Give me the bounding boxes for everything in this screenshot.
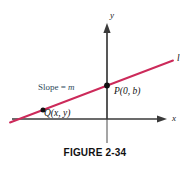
point-p-marker	[104, 83, 110, 89]
point-p-label: P(0, b)	[114, 87, 140, 97]
slope-annotation-prefix: Slope =	[38, 82, 68, 92]
figure-container: y x l Slope = m P(0, b) Q(x, y) FIGURE 2…	[0, 0, 190, 170]
x-axis-arrowhead	[157, 115, 167, 122]
y-axis-arrowhead	[103, 23, 110, 33]
y-axis-label: y	[110, 11, 114, 20]
slope-annotation-variable: m	[68, 82, 75, 92]
slope-annotation: Slope = m	[38, 83, 75, 92]
figure-caption: FIGURE 2-34	[0, 147, 190, 158]
line-label-l: l	[177, 54, 180, 64]
line-l	[10, 61, 173, 123]
point-q-label: Q(x, y)	[44, 109, 70, 119]
graph-area: y x l Slope = m P(0, b) Q(x, y)	[0, 0, 190, 145]
x-axis-label: x	[172, 114, 176, 123]
coordinate-plane-graphic	[0, 0, 190, 145]
